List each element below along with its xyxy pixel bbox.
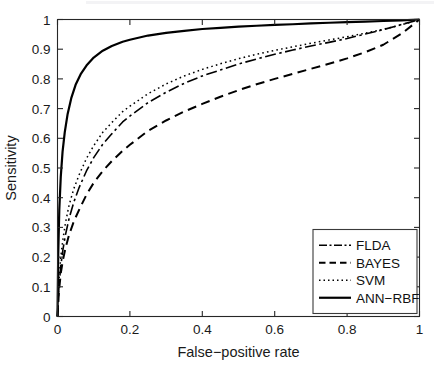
- y-tick-label: 0.7: [32, 102, 51, 117]
- y-tick-label: 0.1: [32, 280, 51, 295]
- y-tick-label: 0.5: [32, 161, 51, 176]
- y-tick-label: 0.3: [32, 220, 51, 235]
- x-tick-label: 0: [54, 322, 62, 337]
- y-tick-label: 0.4: [32, 191, 51, 206]
- roc-chart-svg: 00.20.40.60.8100.10.20.30.40.50.60.70.80…: [0, 0, 437, 371]
- x-axis-label: False−positive rate: [177, 344, 299, 360]
- y-tick-label: 0.9: [32, 42, 51, 57]
- chart-background: [0, 0, 437, 371]
- y-axis-label: Sensitivity: [3, 135, 19, 201]
- x-tick-label: 0.4: [193, 322, 212, 337]
- y-tick-label: 0: [43, 310, 51, 325]
- legend-label: ANN−RBF: [356, 291, 419, 306]
- legend-label: FLDA: [356, 238, 391, 253]
- legend-label: BAYES: [356, 256, 400, 271]
- x-tick-label: 0.6: [265, 322, 284, 337]
- roc-chart-figure: 00.20.40.60.8100.10.20.30.40.50.60.70.80…: [0, 0, 437, 371]
- y-tick-label: 0.8: [32, 72, 51, 87]
- scan-artifact: [86, 1, 434, 4]
- y-tick-label: 0.2: [32, 250, 51, 265]
- y-tick-label: 1: [43, 13, 51, 28]
- legend-label: SVM: [356, 273, 385, 288]
- x-tick-label: 1: [416, 322, 424, 337]
- x-tick-label: 0.2: [121, 322, 140, 337]
- x-tick-label: 0.8: [338, 322, 357, 337]
- chart-legend[interactable]: FLDABAYESSVMANN−RBF: [313, 230, 419, 314]
- y-tick-label: 0.6: [32, 131, 51, 146]
